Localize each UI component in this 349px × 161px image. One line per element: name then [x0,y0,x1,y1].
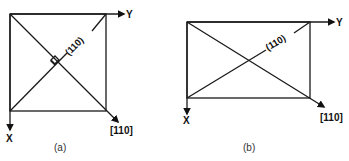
plane-110-trace-lower [10,53,67,111]
direction-110-label: [110] [320,112,343,123]
y-axis-label: Y [126,9,133,20]
plane-110-trace-upper [92,14,106,31]
caption-b: (b) [243,142,255,153]
diagram-canvas: Y X (110) [110] (a) Y X (110) [110] (b) [0,0,349,161]
figure-b: Y X (110) [110] (b) [183,17,343,153]
direction-110-arrow [10,14,118,122]
plane-110-label: (110) [63,34,86,57]
plane-110-trace-upper [294,22,310,33]
plane-110-label: (110) [263,32,287,53]
x-axis-label: X [6,133,13,144]
plane-110-trace-lower [187,50,266,98]
y-axis-label: Y [336,17,343,28]
direction-110-arrow [187,22,324,107]
direction-110-label: [110] [110,125,133,136]
caption-a: (a) [54,142,66,153]
x-axis-label: X [183,115,190,126]
figure-a: Y X (110) [110] (a) [6,9,133,153]
